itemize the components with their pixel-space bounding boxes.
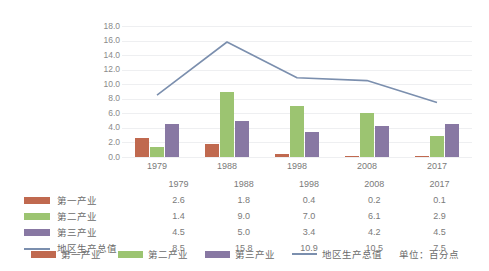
table-cell: 3.4	[276, 227, 341, 238]
table-cell: 5.0	[211, 227, 276, 238]
legend-swatch-icon	[205, 251, 230, 258]
x-axis-category-labels: 19791988199820082017	[122, 160, 472, 174]
table-row-key: 第一产业	[24, 195, 146, 206]
table-cell: 6.1	[342, 211, 407, 222]
line-series-container	[122, 26, 472, 157]
legend-label: 地区生产总值	[322, 249, 382, 260]
legend-item[interactable]: 第一产业	[31, 249, 101, 260]
y-axis-tick-label: 2.0	[108, 138, 120, 147]
x-axis-label: 2017	[402, 160, 472, 172]
table-row: 第一产业2.61.80.40.20.1	[24, 192, 472, 208]
table-cell: 0.4	[276, 195, 341, 206]
legend-item[interactable]: 地区生产总值	[292, 249, 382, 260]
table-cell: 0.1	[407, 195, 472, 206]
legend-item[interactable]: 第三产业	[205, 249, 275, 260]
table-cell: 2.6	[146, 195, 211, 206]
table-cell: 4.5	[407, 227, 472, 238]
legend-swatch-icon	[31, 251, 56, 258]
legend-swatch-icon	[24, 229, 50, 236]
y-axis-tick-label: 12.0	[103, 65, 120, 74]
table-column-header: 1979	[146, 179, 211, 190]
table-row-key: 第二产业	[24, 211, 146, 222]
legend-swatch-icon	[24, 213, 50, 220]
x-axis-label: 1998	[262, 160, 332, 172]
legend-swatch-icon	[118, 251, 143, 258]
table-row-label: 第一产业	[57, 195, 97, 206]
table-cell: 9.0	[211, 211, 276, 222]
legend-line-icon	[292, 253, 317, 255]
table-cell: 7.0	[276, 211, 341, 222]
chart-figure: 0.02.04.06.08.010.012.014.016.018.0 1979…	[0, 0, 489, 271]
table-row-label: 第三产业	[57, 227, 97, 238]
table-row-key: 第三产业	[24, 227, 146, 238]
table-cell: 4.2	[342, 227, 407, 238]
y-axis-tick-label: 6.0	[108, 109, 120, 118]
table-cell: 1.4	[146, 211, 211, 222]
table-cell: 1.8	[211, 195, 276, 206]
legend-item[interactable]: 第二产业	[118, 249, 188, 260]
table-cell: 0.2	[342, 195, 407, 206]
table-column-header: 1998	[276, 179, 341, 190]
chart-legend: 第一产业第二产业第三产业地区生产总值单位：百分点	[0, 246, 489, 262]
table-row: 第二产业1.49.07.06.12.9	[24, 208, 472, 224]
legend-label: 第一产业	[61, 249, 101, 260]
table-column-header: 2017	[407, 179, 472, 190]
y-axis-tick-label: 4.0	[108, 123, 120, 132]
table-cell: 2.9	[407, 211, 472, 222]
table-row: 第三产业4.55.03.44.24.5	[24, 224, 472, 240]
legend-label: 第二产业	[148, 249, 188, 260]
y-axis-tick-label: 14.0	[103, 51, 120, 60]
table-column-header: 1988	[211, 179, 276, 190]
line-series-svg	[122, 26, 472, 157]
table-column-header: 2008	[342, 179, 407, 190]
table-cell: 4.5	[146, 227, 211, 238]
table-row-label: 第二产业	[57, 211, 97, 222]
y-axis-tick-label: 16.0	[103, 36, 120, 45]
y-axis-tick-label: 8.0	[108, 94, 120, 103]
x-axis-label: 2008	[332, 160, 402, 172]
unit-note: 单位：百分点	[399, 249, 459, 260]
gridline	[122, 157, 472, 158]
table-header-row: 19791988199820082017	[24, 176, 472, 192]
x-axis-label: 1979	[122, 160, 192, 172]
legend-swatch-icon	[24, 197, 50, 204]
y-axis-tick-labels: 0.02.04.06.08.010.012.014.016.018.0	[88, 20, 120, 163]
plot-area	[122, 26, 472, 157]
y-axis-tick-label: 0.0	[108, 153, 120, 162]
x-axis-label: 1988	[192, 160, 262, 172]
y-axis-tick-label: 18.0	[103, 22, 120, 31]
line-path	[157, 42, 437, 102]
data-table: 19791988199820082017第一产业2.61.80.40.20.1第…	[24, 176, 472, 256]
y-axis-tick-label: 10.0	[103, 80, 120, 89]
legend-label: 第三产业	[235, 249, 275, 260]
